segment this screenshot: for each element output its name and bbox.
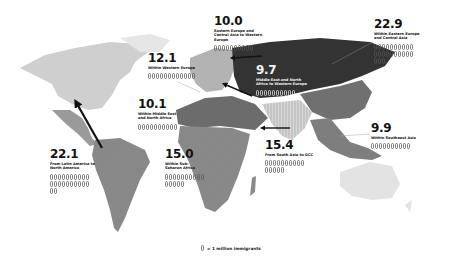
person-icon <box>398 44 401 50</box>
person-icon <box>173 181 176 187</box>
icon-row <box>214 45 262 51</box>
person-icon <box>407 143 410 149</box>
person-icon <box>238 45 241 51</box>
icon-row <box>50 174 92 194</box>
person-icon <box>269 160 272 166</box>
leader-within-sea <box>340 134 370 136</box>
flow-label: From South Asia to GCC <box>265 153 325 157</box>
person-icon <box>152 73 155 79</box>
person-icon <box>168 73 171 79</box>
flow-value: 10.1 <box>138 98 186 110</box>
person-icon <box>222 45 225 51</box>
person-icon <box>280 90 283 96</box>
person-icon <box>54 188 57 194</box>
person-icon <box>58 181 61 187</box>
person-icon <box>410 44 413 50</box>
person-icon <box>166 124 169 130</box>
person-icon <box>146 124 149 130</box>
flow-label: Within Middle East and North Africa <box>138 112 178 121</box>
person-icon <box>375 143 378 149</box>
person-icon <box>265 167 268 173</box>
person-icon <box>382 58 385 64</box>
region-middle-east-north-africa <box>176 96 268 130</box>
person-icon <box>86 174 89 180</box>
person-icon <box>162 124 165 130</box>
person-icon <box>201 245 204 251</box>
flow-label: Eastern Europe and Central Asia to Weste… <box>214 29 264 42</box>
person-icon <box>138 124 141 130</box>
person-icon <box>273 160 276 166</box>
legend-text: = 1 million immigrants <box>207 246 261 251</box>
callout-within-sea: 9.9 Within Southeast Asia <box>371 122 431 149</box>
person-icon <box>284 90 287 96</box>
person-icon <box>277 160 280 166</box>
person-icon <box>70 181 73 187</box>
person-icon <box>160 73 163 79</box>
icon-row <box>148 73 196 79</box>
icon-row <box>138 124 186 130</box>
person-icon <box>379 143 382 149</box>
person-icon <box>197 174 200 180</box>
person-icon <box>181 174 184 180</box>
person-icon <box>164 73 167 79</box>
person-icon <box>62 174 65 180</box>
person-icon <box>169 181 172 187</box>
person-icon <box>165 174 168 180</box>
person-icon <box>264 90 267 96</box>
flow-value: 9.9 <box>371 122 431 134</box>
person-icon <box>66 181 69 187</box>
person-icon <box>374 58 377 64</box>
flow-label: Within Western Europe <box>148 66 208 70</box>
person-icon <box>382 44 385 50</box>
person-icon <box>150 124 153 130</box>
person-icon <box>154 124 157 130</box>
person-icon <box>250 45 253 51</box>
flow-label: Within Southeast Asia <box>371 136 431 140</box>
person-icon <box>288 90 291 96</box>
person-icon <box>260 90 263 96</box>
person-icon <box>281 160 284 166</box>
flow-value: 10.0 <box>214 15 264 27</box>
person-icon <box>406 51 409 57</box>
person-icon <box>256 90 259 96</box>
person-icon <box>378 58 381 64</box>
callout-within-mena: 10.1 Within Middle East and North Africa <box>138 98 186 130</box>
person-icon <box>242 45 245 51</box>
person-icon <box>292 90 295 96</box>
person-icon <box>173 174 176 180</box>
region-south-america <box>92 138 150 232</box>
icon-row <box>265 160 307 173</box>
callout-eeca-to-weu: 10.0 Eastern Europe and Central Asia to … <box>214 15 264 51</box>
person-icon <box>398 51 401 57</box>
person-icon <box>169 174 172 180</box>
legend: = 1 million immigrants <box>201 245 261 251</box>
person-icon <box>391 143 394 149</box>
person-icon <box>265 160 268 166</box>
person-icon <box>226 45 229 51</box>
region-south-asia <box>262 100 312 140</box>
person-icon <box>390 44 393 50</box>
flow-value: 12.1 <box>148 52 208 64</box>
person-icon <box>218 45 221 51</box>
region-australia <box>340 162 400 200</box>
person-icon <box>176 73 179 79</box>
person-icon <box>293 160 296 166</box>
person-icon <box>374 51 377 57</box>
person-icon <box>387 143 390 149</box>
person-icon <box>82 181 85 187</box>
icon-row <box>374 44 414 64</box>
person-icon <box>177 174 180 180</box>
person-icon <box>394 51 397 57</box>
person-icon <box>184 73 187 79</box>
person-icon <box>158 124 161 130</box>
person-icon <box>148 73 151 79</box>
person-icon <box>272 90 275 96</box>
person-icon <box>394 44 397 50</box>
person-icon <box>386 51 389 57</box>
person-icon <box>301 160 304 166</box>
callout-within-weu: 12.1 Within Western Europe <box>148 52 208 79</box>
person-icon <box>410 51 413 57</box>
person-icon <box>74 181 77 187</box>
person-icon <box>70 174 73 180</box>
person-icon <box>297 160 300 166</box>
